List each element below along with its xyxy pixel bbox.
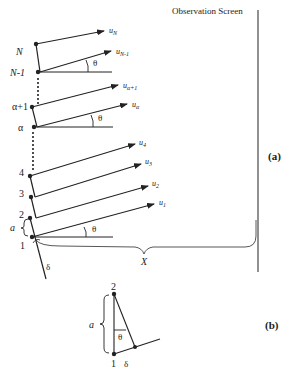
point-label-4: 4 [19, 167, 24, 178]
inset-b: 2 1 a θ δ [89, 281, 160, 369]
inset-foot-point [133, 345, 137, 349]
vector-uN-1 [40, 51, 111, 72]
incidence-line [30, 218, 46, 279]
theta-label-1: θ [92, 224, 96, 234]
point-label-3: 3 [19, 188, 24, 199]
point-label-2: 2 [19, 209, 24, 220]
point-N [34, 42, 38, 46]
vector-label-ualpha: uα [132, 100, 140, 110]
vector-label-u2: u2 [152, 179, 159, 189]
segment-N-to-N-1 [36, 44, 40, 72]
svg-text:uN: uN [109, 26, 118, 36]
point-alpha [32, 125, 36, 129]
segment-4-to-3 [30, 176, 35, 197]
inset-theta-label: θ [118, 332, 122, 342]
point-label-alpha+1: α+1 [12, 101, 28, 112]
angle-arc-alpha [91, 115, 93, 127]
point-1 [30, 235, 34, 239]
vector-label-uN-1: uN-1 [116, 47, 129, 57]
svg-text:u4: u4 [139, 138, 146, 148]
angle-arc-1 [84, 227, 86, 237]
vector-label-u4: u4 [139, 138, 146, 148]
theta-label-N-1: θ [93, 58, 97, 68]
point-label-N: N [15, 46, 24, 57]
panel-a-label: (a) [268, 150, 281, 163]
vector-uN [36, 31, 104, 44]
point-4 [28, 174, 32, 178]
point-label-alpha: α [18, 122, 24, 133]
spacing-label: a [10, 222, 15, 233]
segment-alpha+1-to-alpha [32, 107, 37, 127]
svg-text:uN-1: uN-1 [116, 47, 129, 57]
point-alpha+1 [30, 105, 34, 109]
point-N-1 [36, 70, 40, 74]
vector-label-ualpha+1: uα+1 [123, 81, 137, 91]
vector-u2 [36, 186, 148, 218]
panel-b-label: (b) [265, 319, 279, 332]
spacing-brace [21, 219, 28, 236]
svg-text:uα: uα [132, 100, 140, 110]
observation-screen-label: Observation Screen [172, 6, 243, 16]
svg-text:u2: u2 [152, 179, 159, 189]
inset-point-2 [112, 292, 116, 296]
vector-ualpha+1 [32, 85, 118, 107]
vector-label-uN: uN [109, 26, 118, 36]
point-label-1: 1 [20, 240, 25, 251]
segment-3-to-2 [31, 197, 36, 218]
point-2 [28, 216, 32, 220]
inset-point-1 [112, 352, 116, 356]
svg-text:u1: u1 [159, 198, 166, 208]
inset-delta-label: δ [124, 359, 128, 369]
angle-arc-N-1 [86, 60, 88, 72]
theta-label-alpha: θ [98, 113, 102, 123]
inset-label-2: 2 [111, 281, 116, 292]
offset-label: δ [46, 262, 50, 272]
point-label-N-1: N-1 [9, 67, 25, 78]
point-3 [29, 195, 33, 199]
vector-ualpha [37, 104, 127, 127]
inset-spacing-label: a [89, 319, 94, 330]
svg-text:u3: u3 [145, 157, 152, 167]
svg-text:uα+1: uα+1 [123, 81, 137, 91]
inset-spacing-brace [100, 295, 109, 353]
inset-label-1: 1 [111, 358, 116, 369]
distance-label: X [140, 256, 148, 267]
diagram-canvas: Observation Screen (a) θ θ θ uN uN-1 uα+… [0, 0, 289, 372]
vector-label-u3: u3 [145, 157, 152, 167]
vector-label-u1: u1 [159, 198, 166, 208]
